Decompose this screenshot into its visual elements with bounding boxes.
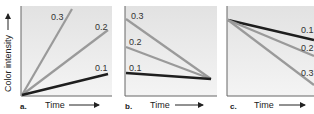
panel-a-label-0.3: 0.3 [51,12,64,22]
panel-b-letter: b. [125,102,132,111]
panel-c-label-0.3: 0.3 [301,68,314,78]
panel-c-label-0.1: 0.1 [301,25,314,35]
panel-b: 0.3 0.2 0.1 b. Time [125,6,217,111]
panel-a-label-0.2: 0.2 [95,22,108,32]
panel-a-x-label: Time [45,100,65,110]
panel-c-label-0.2: 0.2 [301,43,314,53]
panel-b-label-0.3: 0.3 [131,11,144,21]
figure: Color intensity 0.3 0.2 0.1 a. Time 0.3 … [0,0,314,114]
panel-a: 0.3 0.2 0.1 a. Time [20,6,112,111]
panel-c-x-label: Time [254,100,274,110]
panel-c: 0.1 0.2 0.3 c. Time [227,6,314,111]
panel-b-label-0.2: 0.2 [129,37,142,47]
y-axis-label: Color intensity [3,34,13,92]
panel-a-label-0.1: 0.1 [95,63,108,73]
panel-b-label-0.1: 0.1 [129,63,142,73]
panel-c-letter: c. [230,102,237,111]
panel-b-x-label: Time [150,100,170,110]
panel-a-letter: a. [20,102,27,111]
y-axis-title: Color intensity [3,14,13,92]
